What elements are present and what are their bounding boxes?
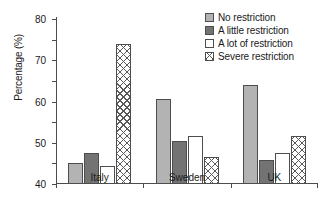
legend-label-no-restriction: No restriction — [218, 12, 276, 23]
legend-label-a-lot-of-restriction: A lot of restriction — [218, 38, 293, 49]
legend-item-a-little-restriction[interactable]: A little restriction — [205, 24, 294, 36]
x-axis-label-uk: UK — [267, 172, 281, 183]
x-axis-label-italy: Italy — [90, 172, 108, 183]
x-axis-separator — [143, 184, 144, 188]
y-axis-tick: 80 — [52, 19, 56, 20]
y-axis-tick: 70 — [52, 40, 56, 41]
y-axis-tick-label: 40 — [35, 179, 46, 190]
y-axis-tick-label: 80 — [35, 14, 46, 25]
bar-italy-severe-restriction[interactable] — [116, 44, 131, 184]
legend-swatch-no-restriction — [205, 13, 214, 22]
bar-sweden-severe-restriction[interactable] — [204, 157, 219, 184]
x-axis-separator — [317, 184, 318, 188]
y-axis-line — [56, 17, 57, 185]
bar-group-italy — [68, 19, 131, 184]
y-axis-tick-label: 70 — [35, 55, 46, 66]
legend-item-no-restriction[interactable]: No restriction — [205, 11, 294, 23]
y-axis-tick: 20 — [52, 143, 56, 144]
legend-swatch-severe-restriction — [205, 52, 214, 61]
y-axis-tick: 50 — [52, 81, 56, 82]
bar-chart: Percentage (%) 01020304050607080 ItalySw… — [0, 0, 329, 221]
x-axis-separator — [231, 184, 232, 188]
y-axis-label: Percentage (%) — [13, 8, 24, 128]
chart-legend: No restriction A little restriction A lo… — [205, 11, 294, 62]
y-axis-tick-label: 50 — [35, 137, 46, 148]
y-axis-tick: 10 — [52, 163, 56, 164]
bar-uk-severe-restriction[interactable] — [291, 136, 306, 184]
x-axis-separator — [56, 184, 57, 188]
y-axis-tick-label: 30 — [35, 220, 46, 221]
x-axis-label-sweden: Sweden — [169, 172, 205, 183]
y-axis-tick: 30 — [52, 122, 56, 123]
legend-swatch-a-little-restriction — [205, 26, 214, 35]
legend-item-severe-restriction[interactable]: Severe restriction — [205, 50, 294, 62]
bar-uk-no-restriction[interactable] — [243, 85, 258, 184]
bar-italy-no-restriction[interactable] — [68, 163, 83, 184]
y-axis-tick-label: 60 — [35, 96, 46, 107]
legend-label-a-little-restriction: A little restriction — [218, 25, 289, 36]
y-axis-tick: 40 — [52, 102, 56, 103]
legend-label-severe-restriction: Severe restriction — [218, 51, 294, 62]
y-axis-tick: 60 — [52, 60, 56, 61]
legend-swatch-a-lot-of-restriction — [205, 39, 214, 48]
legend-item-a-lot-of-restriction[interactable]: A lot of restriction — [205, 37, 294, 49]
